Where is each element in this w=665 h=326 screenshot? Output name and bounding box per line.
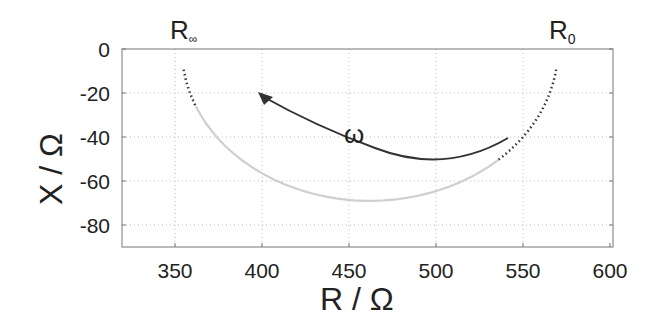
svg-text:450: 450 xyxy=(331,259,366,282)
plot-frame xyxy=(122,49,613,247)
x-tick-labels: 350400450500550600 xyxy=(157,259,627,282)
svg-text:-20: -20 xyxy=(80,82,110,105)
y-axis-label: X / Ω xyxy=(33,133,69,205)
arrow-head-icon xyxy=(258,92,273,105)
svg-text:-80: -80 xyxy=(80,214,110,237)
r-infinity-label: R∞ xyxy=(170,15,197,46)
omega-arrow xyxy=(262,96,508,159)
x-axis-label: R / Ω xyxy=(320,281,394,317)
low-frequency-dotted xyxy=(499,70,556,160)
svg-text:500: 500 xyxy=(418,259,453,282)
svg-text:-60: -60 xyxy=(80,170,110,193)
axis-ticks xyxy=(122,49,613,247)
omega-label: ω xyxy=(344,119,364,149)
svg-text:0: 0 xyxy=(98,38,110,61)
svg-text:350: 350 xyxy=(157,259,192,282)
y-tick-labels: 0-20-40-60-80 xyxy=(80,38,110,237)
svg-text:600: 600 xyxy=(592,259,627,282)
svg-text:400: 400 xyxy=(244,259,279,282)
high-frequency-dotted xyxy=(184,70,196,107)
svg-text:550: 550 xyxy=(505,259,540,282)
grid xyxy=(122,49,613,247)
r-zero-label: R0 xyxy=(549,15,576,47)
svg-text:-40: -40 xyxy=(80,126,110,149)
nyquist-plot: ω R∞ R0 0-20-40-60-80 350400450500550600… xyxy=(0,0,665,326)
